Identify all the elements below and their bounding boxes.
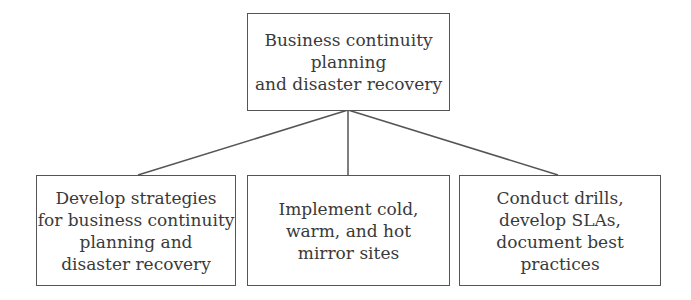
connector-root-to-right [348,110,558,175]
child1-line-1: Develop strategies [55,187,216,209]
child3-line-1: Conduct drills, [496,187,623,209]
child-node-mirror-sites: Implement cold, warm, and hot mirror sit… [247,175,450,286]
child3-line-2: develop SLAs, [499,209,621,231]
root-line-2: planning [311,51,387,73]
child2-line-3: mirror sites [298,242,399,264]
root-line-3: and disaster recovery [255,73,442,95]
child3-line-4: practices [520,253,599,275]
child2-line-1: Implement cold, [278,198,418,220]
child2-line-2: warm, and hot [286,220,411,242]
child-node-strategies: Develop strategies for business continui… [36,175,236,286]
child1-line-2: for business continuity [38,209,235,231]
child3-line-3: document best [496,231,623,253]
child1-line-4: disaster recovery [61,253,211,275]
connector-root-to-left [138,110,348,175]
child-node-drills: Conduct drills, develop SLAs, document b… [459,175,661,286]
root-node: Business continuity planning and disaste… [247,13,450,111]
root-line-1: Business continuity [264,29,432,51]
child1-line-3: planning and [80,231,193,253]
